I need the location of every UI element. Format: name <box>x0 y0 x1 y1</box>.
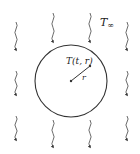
radius-line <box>71 66 90 81</box>
wavy-arrow-icon <box>89 120 91 147</box>
wavy-arrow-icon <box>52 13 54 42</box>
ambient-temperature-label: T∞ <box>100 16 114 30</box>
wavy-arrow-icon <box>15 71 17 95</box>
wavy-arrow-icon <box>126 71 128 95</box>
radius-label: r <box>82 73 87 82</box>
wavy-arrow-icon <box>15 116 17 140</box>
wavy-arrow-icon <box>15 22 17 50</box>
wavy-arrow-icon <box>89 13 91 42</box>
sphere-heat-diagram: T(t, r) r T∞ <box>0 0 140 154</box>
wavy-arrow-icon <box>126 116 128 140</box>
wavy-arrow-icon <box>126 22 128 50</box>
wavy-arrow-icon <box>52 120 54 147</box>
temperature-label: T(t, r) <box>66 56 93 66</box>
